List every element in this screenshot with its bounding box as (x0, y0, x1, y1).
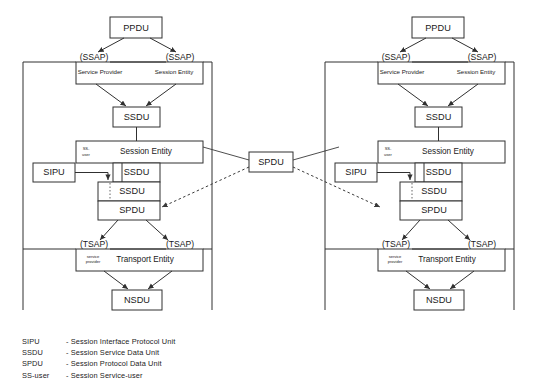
service-provider-small-left-line2: provider (86, 259, 101, 264)
session-entity-label-ssap-left: Session Entity (155, 68, 195, 75)
ssap-label-right-2: (SSAP) (468, 52, 497, 62)
ssap-to-ssdu-left-arrow (96, 84, 126, 106)
spdu-center-to-left-dashed (162, 167, 249, 207)
right-stack: PPDU (SSAP) (SSAP) Service Provider Sess… (325, 17, 514, 310)
tsap-to-nsdu-left-arrow (104, 271, 128, 289)
tsap-to-nsdu-right-arrow-right (450, 271, 474, 289)
legend-term: SSDU (22, 347, 66, 358)
ssdu-label-lower-left: SSDU (119, 186, 145, 196)
ss-user-label-right-line1: SS- (385, 146, 392, 151)
legend-item: SIPU - Session Interface Protocol Unit (22, 336, 175, 347)
sipu-label-right: SIPU (345, 167, 366, 177)
session-entity-label-right: Session Entity (422, 147, 475, 156)
ss-user-label-right-line2: user (384, 152, 392, 157)
left-stack: PPDU (SSAP) (SSAP) Service Provider Sess… (23, 17, 212, 310)
tsap-label-right-1: (TSAP) (382, 239, 410, 249)
legend-term: SPDU (22, 358, 66, 369)
transport-entity-label-right: Transport Entity (418, 255, 476, 264)
spdu-to-tsap-left-arrow (100, 220, 118, 240)
service-provider-small-right-line2: provider (388, 259, 403, 264)
spdu-to-tsap-right-arrow-right (448, 220, 470, 240)
ssdu-label-upper-right: SSDU (426, 112, 452, 122)
tsap-label-left-1: (TSAP) (80, 239, 108, 249)
ssdu-label-upper-left: SSDU (124, 112, 150, 122)
ppdu-to-ssap-right-arrow (150, 38, 176, 52)
spdu-to-tsap-left-arrow-right (402, 220, 420, 240)
transport-entity-label-left: Transport Entity (116, 255, 174, 264)
legend-item: SS-user - Session Service-user (22, 370, 175, 381)
tsap-to-nsdu-right-arrow (148, 271, 172, 289)
ppdu-to-ssap-right-arrow-right (452, 38, 478, 52)
spdu-to-tsap-right-arrow (146, 220, 168, 240)
ssdu-label-mid-left: SSDU (124, 167, 150, 177)
legend-definition: - Session Interface Protocol Unit (66, 336, 175, 347)
protocol-diagram: PPDU (SSAP) (SSAP) Service Provider Sess… (0, 0, 537, 385)
ppdu-to-ssap-left-arrow (98, 38, 124, 52)
legend-definition: - Session Protocol Data Unit (66, 358, 162, 369)
ppdu-label-right: PPDU (425, 23, 451, 33)
right-frame-outer-line (505, 62, 514, 310)
sipu-connector-left (75, 173, 108, 181)
spdu-label-center: SPDU (258, 157, 284, 167)
left-session-entity-to-spdu-line (203, 147, 249, 160)
legend-definition: - Session Service Data Unit (66, 347, 159, 358)
session-entity-label-left: Session Entity (120, 147, 173, 156)
sipu-label-left: SIPU (43, 167, 64, 177)
nsdu-label-left: NSDU (124, 295, 150, 305)
legend-definition: - Session Service-user (66, 370, 143, 381)
tsap-to-nsdu-left-arrow-right (406, 271, 430, 289)
ssdu-label-mid-right: SSDU (426, 167, 452, 177)
ppdu-to-ssap-left-arrow-right (400, 38, 426, 52)
ppdu-label-left: PPDU (123, 23, 149, 33)
spdu-label-left: SPDU (119, 205, 145, 215)
spdu-label-right: SPDU (421, 205, 447, 215)
legend-item: SPDU - Session Protocol Data Unit (22, 358, 175, 369)
legend-term: SS-user (22, 370, 66, 381)
service-provider-label-left: Service Provider (78, 68, 123, 75)
tsap-label-right-2: (TSAP) (468, 239, 496, 249)
ssap-to-ssdu-right-arrow-right (448, 84, 478, 106)
diagram-canvas: PPDU (SSAP) (SSAP) Service Provider Sess… (0, 0, 537, 385)
session-entity-label-ssap-right: Session Entity (457, 68, 497, 75)
sipu-connector-right (377, 173, 410, 181)
ssap-to-ssdu-left-arrow-right (398, 84, 428, 106)
nsdu-label-right: NSDU (426, 295, 452, 305)
service-provider-label-right: Service Provider (380, 68, 425, 75)
tsap-label-left-2: (TSAP) (166, 239, 194, 249)
legend: SIPU - Session Interface Protocol Unit S… (22, 336, 175, 381)
ss-user-label-left-line1: SS- (83, 146, 90, 151)
right-session-entity-to-spdu-line (293, 147, 339, 160)
ssap-label-left-2: (SSAP) (166, 52, 195, 62)
ssap-to-ssdu-right-arrow (146, 84, 176, 106)
ssap-label-right-1: (SSAP) (382, 52, 411, 62)
ssdu-label-lower-right: SSDU (421, 186, 447, 196)
legend-item: SSDU - Session Service Data Unit (22, 347, 175, 358)
ssap-label-left-1: (SSAP) (80, 52, 109, 62)
ss-user-label-left-line2: user (82, 152, 90, 157)
legend-term: SIPU (22, 336, 66, 347)
